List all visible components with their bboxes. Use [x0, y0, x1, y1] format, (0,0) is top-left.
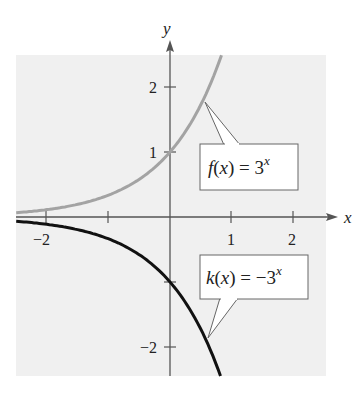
y-tick-label-2: 2: [149, 79, 157, 96]
y-tick-label-neg2: −2: [140, 339, 157, 356]
svg-text:f(x) = 3x: f(x) = 3x: [208, 153, 270, 179]
exponential-chart: x y −2 1 2 2 1 −2 f(x) = 3x k(x) = −3x: [0, 0, 364, 394]
x-tick-label-2: 2: [288, 231, 296, 248]
plot-background: [16, 55, 326, 376]
y-tick-label-1: 1: [149, 144, 157, 161]
y-axis-label: y: [161, 19, 171, 38]
svg-text:k(x) = −3x: k(x) = −3x: [206, 263, 282, 289]
x-axis-label: x: [343, 208, 352, 227]
x-tick-label-1: 1: [227, 231, 235, 248]
x-tick-label-neg2: −2: [33, 231, 50, 248]
